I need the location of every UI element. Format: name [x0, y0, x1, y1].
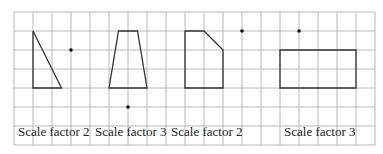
centre-dot-trapezium [126, 105, 130, 109]
label-shape-1: Scale factor 2 [18, 124, 89, 139]
shapes-layer [33, 31, 356, 88]
shape-triangle [33, 31, 62, 88]
scale-factor-labels: Scale factor 2 Scale factor 3 Scale fact… [18, 124, 355, 139]
enlargement-diagram: Scale factor 2 Scale factor 3 Scale fact… [0, 0, 383, 154]
label-shape-3: Scale factor 2 [171, 124, 242, 139]
centre-dot-triangle [69, 48, 73, 52]
label-shape-2: Scale factor 3 [95, 124, 166, 139]
centre-dot-rectangle [297, 29, 301, 33]
label-shape-4: Scale factor 3 [284, 124, 355, 139]
centre-dot-pentagon [240, 29, 244, 33]
